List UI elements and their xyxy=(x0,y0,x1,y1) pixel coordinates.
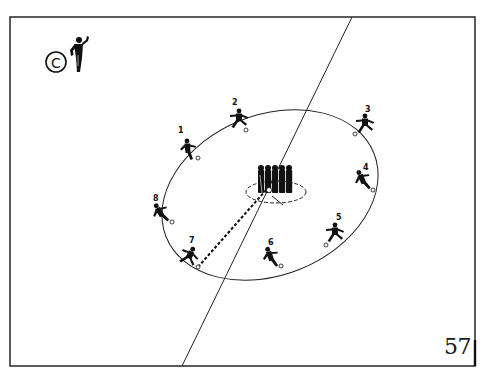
player-3: 3 xyxy=(353,105,374,136)
defensive-wall xyxy=(246,165,306,205)
ball-2 xyxy=(244,128,248,132)
svg-text:2: 2 xyxy=(232,98,238,107)
svg-text:5: 5 xyxy=(336,213,342,222)
ball-4 xyxy=(371,188,375,192)
ball-6 xyxy=(279,264,283,268)
player-4: 4 xyxy=(352,163,375,193)
circuit-ellipse xyxy=(136,79,404,311)
label-letter: C xyxy=(51,55,61,71)
coach-icon xyxy=(70,36,89,72)
svg-text:3: 3 xyxy=(365,105,371,114)
page-number: 57 xyxy=(444,334,471,359)
ball-8 xyxy=(170,220,174,224)
ball-3 xyxy=(353,132,357,136)
player-6: 6 xyxy=(260,238,283,269)
svg-text:7: 7 xyxy=(189,236,195,245)
player-2: 2 xyxy=(230,98,248,132)
player-5: 5 xyxy=(324,213,344,247)
player-1: 1 xyxy=(178,126,200,160)
wall-players-icon xyxy=(258,165,292,193)
player-8: 8 xyxy=(149,194,174,226)
drill-diagram: 1 2 3 4 5 6 7 8 C xyxy=(0,0,492,383)
pass-line xyxy=(198,190,266,267)
ball-5 xyxy=(324,243,328,247)
ball-1 xyxy=(196,156,200,160)
svg-text:1: 1 xyxy=(178,126,184,135)
diagram-label: C xyxy=(46,52,66,72)
svg-text:8: 8 xyxy=(153,194,159,203)
ball-7 xyxy=(196,265,200,269)
wall-ball xyxy=(267,188,272,193)
player-7: 7 xyxy=(177,236,202,269)
svg-text:4: 4 xyxy=(363,163,369,172)
svg-text:6: 6 xyxy=(268,238,274,247)
